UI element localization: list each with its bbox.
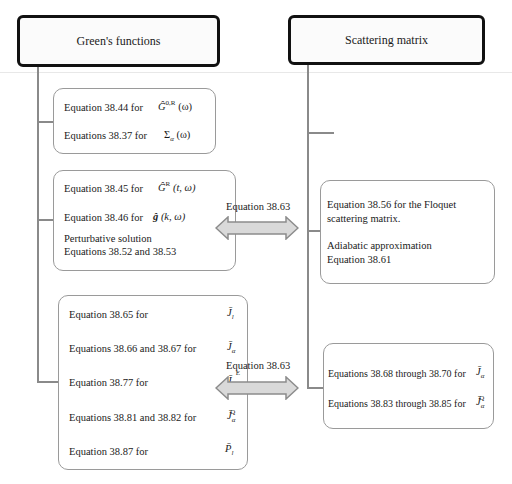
scattering-box-2: Equations 38.68 through 38.70 for J̄α Eq… (323, 343, 494, 429)
right-stub-branch (307, 132, 334, 134)
greens-functions-title: Green's functions (77, 34, 161, 49)
greens-functions-header: Green's functions (17, 15, 220, 67)
symbol-J-alpha-Q: J̄αQ (476, 394, 489, 410)
symbol-J-alpha: J̄α (227, 341, 235, 355)
equation-line: Equations 38.52 and 38.53 (64, 246, 176, 257)
scattering-matrix-header: Scattering matrix (288, 15, 485, 65)
equation-line: Equation 38.44 for (64, 102, 143, 113)
equation-line: Equation 38.45 for (64, 183, 143, 194)
right-branch-2 (307, 387, 324, 389)
symbol-g-vector: ĝ (k, ω) (153, 211, 185, 222)
symbol-J-l: J̄l (227, 307, 234, 321)
arrow-label-2: Equation 38.63 (226, 360, 290, 371)
symbol-GR: ĜR (t, ω) (158, 180, 195, 193)
equation-line: Equation 38.77 for (69, 377, 148, 388)
left-branch-1 (37, 121, 54, 123)
right-trunk-connector (307, 65, 309, 389)
symbol-P-l: P̄l (225, 443, 233, 457)
scattering-box-1: Equation 38.56 for the Floquet scatterin… (320, 180, 495, 284)
equation-line: Equation 38.46 for (64, 212, 143, 223)
equation-line: Equations 38.81 and 38.82 for (69, 412, 196, 423)
greens-box-1: Equation 38.44 for Ĝ0,R (ω) Equations 38… (53, 88, 216, 154)
left-trunk-connector (37, 67, 39, 383)
equation-line: Equations 38.66 and 38.67 for (69, 343, 196, 354)
double-arrow-icon (215, 216, 299, 240)
symbol-J-alpha: J̄α (476, 366, 484, 380)
symbol-G0R: Ĝ0,R (ω) (158, 99, 192, 112)
equation-line: Equation 38.56 for the Floquet (327, 199, 456, 210)
scattering-matrix-title: Scattering matrix (345, 33, 428, 48)
equation-line: Equations 38.83 through 38.85 for (328, 398, 466, 409)
equation-line: Equation 38.65 for (69, 309, 148, 320)
left-branch-3 (37, 381, 59, 383)
equation-line: Equations 38.37 for (64, 130, 147, 141)
equation-line: Equation 38.87 for (69, 446, 148, 457)
page-divider (0, 72, 512, 73)
double-arrow-icon (215, 376, 299, 400)
symbol-J-alpha-Q: J̄αQ (227, 408, 240, 424)
equation-line: scattering matrix. (327, 213, 400, 224)
equation-line: Equation 38.61 (327, 254, 391, 265)
greens-box-2: Equation 38.45 for ĜR (t, ω) Equation 38… (53, 170, 236, 271)
equation-line: Perturbative solution (64, 233, 152, 244)
arrow-label-1: Equation 38.63 (226, 201, 290, 212)
equation-line: Equations 38.68 through 38.70 for (328, 368, 466, 379)
symbol-sigma-alpha: Σα (ω) (164, 129, 190, 143)
left-branch-2 (37, 219, 54, 221)
equation-line: Adiabatic approximation (327, 240, 432, 251)
right-branch-1 (307, 230, 321, 232)
